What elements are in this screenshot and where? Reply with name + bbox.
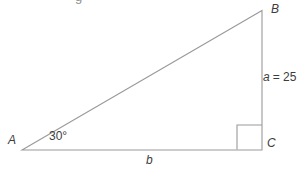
side-a-value: = 25: [273, 70, 297, 84]
triangle-diagram: [0, 0, 301, 175]
vertex-label-c: C: [267, 137, 276, 150]
vertex-label-b: B: [271, 3, 279, 16]
vertex-label-a: A: [8, 134, 16, 147]
angle-label: 30°: [49, 130, 67, 143]
side-a-variable: a: [263, 70, 270, 84]
triangle-figure: g A B C 30° a= 25 b: [0, 0, 301, 175]
side-a-label: a= 25: [263, 71, 296, 84]
side-b-label: b: [146, 154, 153, 167]
right-angle-marker: [237, 125, 262, 150]
